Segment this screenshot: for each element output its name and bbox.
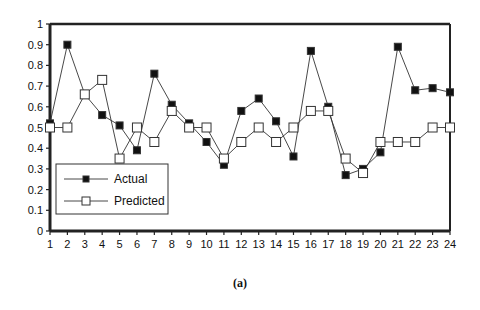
x-tick-label: 21 bbox=[392, 238, 404, 250]
figure-caption: (a) bbox=[0, 276, 480, 291]
x-tick-label: 1 bbox=[47, 238, 53, 250]
data-point-predicted bbox=[272, 137, 281, 146]
x-tick-label: 15 bbox=[287, 238, 299, 250]
data-point-predicted bbox=[150, 137, 159, 146]
x-tick-label: 23 bbox=[426, 238, 438, 250]
data-point-predicted bbox=[115, 154, 124, 163]
data-point-predicted bbox=[63, 123, 72, 132]
y-tick-label: 0.4 bbox=[28, 142, 43, 154]
data-point-actual bbox=[273, 118, 280, 125]
data-point-predicted bbox=[167, 106, 176, 115]
data-point-actual bbox=[64, 41, 71, 48]
data-point-actual bbox=[133, 147, 140, 154]
x-tick-label: 20 bbox=[374, 238, 386, 250]
data-point-predicted bbox=[98, 75, 107, 84]
data-point-predicted bbox=[306, 106, 315, 115]
x-tick-label: 9 bbox=[186, 238, 192, 250]
data-point-predicted bbox=[428, 123, 437, 132]
data-point-actual bbox=[429, 85, 436, 92]
data-point-actual bbox=[342, 172, 349, 179]
data-point-predicted bbox=[411, 137, 420, 146]
data-point-predicted bbox=[341, 154, 350, 163]
x-tick-label: 5 bbox=[117, 238, 123, 250]
y-tick-label: 0 bbox=[37, 225, 43, 237]
data-point-predicted bbox=[237, 137, 246, 146]
data-point-predicted bbox=[219, 154, 228, 163]
x-tick-label: 2 bbox=[64, 238, 70, 250]
data-point-actual bbox=[99, 112, 106, 119]
data-point-predicted bbox=[376, 137, 385, 146]
data-point-predicted bbox=[46, 123, 55, 132]
x-tick-label: 10 bbox=[200, 238, 212, 250]
data-point-predicted bbox=[185, 123, 194, 132]
x-tick-label: 12 bbox=[235, 238, 247, 250]
y-tick-label: 0.9 bbox=[28, 39, 43, 51]
x-tick-label: 4 bbox=[99, 238, 105, 250]
x-tick-label: 6 bbox=[134, 238, 140, 250]
x-tick-label: 17 bbox=[322, 238, 334, 250]
legend-filled-square-icon bbox=[83, 176, 89, 182]
data-point-actual bbox=[151, 70, 158, 77]
x-tick-label: 8 bbox=[169, 238, 175, 250]
data-point-predicted bbox=[324, 106, 333, 115]
data-point-predicted bbox=[446, 123, 455, 132]
data-point-predicted bbox=[359, 169, 368, 178]
data-point-actual bbox=[116, 122, 123, 129]
data-point-predicted bbox=[393, 137, 402, 146]
x-tick-label: 3 bbox=[82, 238, 88, 250]
series-line-actual bbox=[50, 45, 450, 175]
data-point-actual bbox=[307, 47, 314, 54]
data-point-actual bbox=[290, 153, 297, 160]
data-point-predicted bbox=[289, 123, 298, 132]
line-chart: 00.10.20.30.40.50.60.70.80.9112345678910… bbox=[0, 0, 480, 310]
data-point-actual bbox=[203, 138, 210, 145]
y-tick-label: 0.8 bbox=[28, 59, 43, 71]
x-tick-label: 16 bbox=[305, 238, 317, 250]
y-tick-label: 0.6 bbox=[28, 101, 43, 113]
legend-label: Predicted bbox=[114, 194, 165, 208]
y-tick-label: 1 bbox=[37, 18, 43, 30]
y-tick-label: 0.7 bbox=[28, 80, 43, 92]
legend-open-square-icon bbox=[82, 197, 90, 205]
x-tick-label: 14 bbox=[270, 238, 282, 250]
y-tick-label: 0.1 bbox=[28, 204, 43, 216]
y-tick-label: 0.3 bbox=[28, 163, 43, 175]
data-point-predicted bbox=[254, 123, 263, 132]
data-point-actual bbox=[394, 43, 401, 50]
data-point-predicted bbox=[132, 123, 141, 132]
x-tick-label: 11 bbox=[218, 238, 229, 250]
y-tick-label: 0.5 bbox=[28, 122, 43, 134]
data-point-actual bbox=[447, 89, 454, 96]
data-point-predicted bbox=[202, 123, 211, 132]
x-tick-label: 22 bbox=[409, 238, 421, 250]
x-tick-label: 13 bbox=[253, 238, 265, 250]
data-point-actual bbox=[412, 87, 419, 94]
x-tick-label: 19 bbox=[357, 238, 369, 250]
data-point-actual bbox=[377, 149, 384, 156]
data-point-actual bbox=[255, 95, 262, 102]
data-point-actual bbox=[238, 107, 245, 114]
x-tick-label: 24 bbox=[444, 238, 456, 250]
x-tick-label: 7 bbox=[151, 238, 157, 250]
y-tick-label: 0.2 bbox=[28, 184, 43, 196]
x-tick-label: 18 bbox=[340, 238, 352, 250]
data-point-predicted bbox=[80, 90, 89, 99]
legend-label: Actual bbox=[114, 172, 147, 186]
